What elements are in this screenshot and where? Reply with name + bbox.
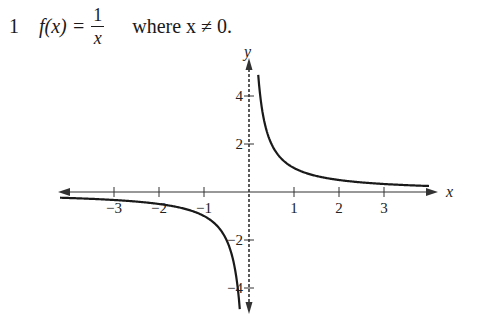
function-graph: xy−3−2−112342−2−4	[0, 0, 484, 334]
x-tick-label: 3	[380, 200, 388, 216]
y-axis-down-arrow-icon	[246, 302, 253, 314]
curve-negative-branch	[60, 198, 240, 309]
curve-positive-branch	[258, 75, 429, 186]
y-tick-label: 4	[236, 88, 244, 104]
x-tick-label: 2	[335, 200, 343, 216]
y-axis-label: y	[242, 43, 252, 61]
y-tick-label: 2	[236, 136, 244, 152]
x-axis-label: x	[445, 183, 453, 200]
x-tick-label: −3	[106, 200, 122, 216]
x-axis-right-arrow-icon	[426, 188, 438, 196]
x-axis-left-arrow-icon	[58, 188, 70, 196]
x-tick-label: 1	[290, 200, 298, 216]
y-tick-label: −4	[227, 280, 243, 296]
